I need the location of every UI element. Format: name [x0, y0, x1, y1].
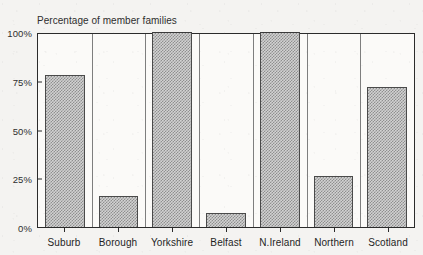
y-axis-tick-label: 75%	[13, 76, 32, 87]
x-axis-slot: Suburb	[37, 228, 91, 248]
y-axis: 0%25%50%75%100%	[0, 33, 37, 228]
x-axis: SuburbBoroughYorkshireBelfastN.IrelandNo…	[37, 228, 415, 248]
x-axis-tick-label: Suburb	[37, 237, 91, 248]
y-axis-tick-label: 25%	[13, 174, 32, 185]
x-axis-slot: Yorkshire	[145, 228, 199, 248]
y-axis-tick-mark	[37, 179, 42, 180]
bar-slot	[360, 34, 414, 227]
x-axis-slot: Belfast	[199, 228, 253, 248]
bar-suburb[interactable]	[45, 75, 85, 227]
y-axis-tick-label: 100%	[7, 28, 32, 39]
bar-slot	[38, 34, 92, 227]
x-axis-slot: Scotland	[361, 228, 415, 248]
chart-title-cropped	[57, 0, 177, 2]
bar-slot	[92, 34, 146, 227]
y-axis-tick-label: 0%	[18, 223, 32, 234]
y-axis-tick-mark	[37, 130, 42, 131]
bar-slot	[145, 34, 199, 227]
bar-scotland[interactable]	[367, 87, 407, 227]
bar-yorkshire[interactable]	[152, 32, 192, 227]
bar-slot	[253, 34, 307, 227]
bar-borough[interactable]	[99, 196, 139, 227]
bar-northern[interactable]	[314, 176, 354, 227]
x-axis-slot: N.Ireland	[253, 228, 307, 248]
x-axis-tick-label: Scotland	[361, 237, 415, 248]
x-axis-tick-label: Northern	[307, 237, 361, 248]
chart-subtitle: Percentage of member families	[37, 15, 177, 26]
bar-n-ireland[interactable]	[260, 32, 300, 227]
plot-area	[37, 33, 415, 228]
x-axis-tick-label: Yorkshire	[145, 237, 199, 248]
bar-series	[38, 34, 414, 227]
bar-slot	[199, 34, 253, 227]
bar-slot	[307, 34, 361, 227]
x-axis-tick-label: Belfast	[199, 237, 253, 248]
x-axis-slot: Northern	[307, 228, 361, 248]
x-axis-slot: Borough	[91, 228, 145, 248]
x-axis-tick-label: Borough	[91, 237, 145, 248]
y-axis-tick-label: 50%	[13, 125, 32, 136]
bar-belfast[interactable]	[206, 213, 246, 227]
x-axis-tick-label: N.Ireland	[253, 237, 307, 248]
y-axis-tick-mark	[37, 81, 42, 82]
